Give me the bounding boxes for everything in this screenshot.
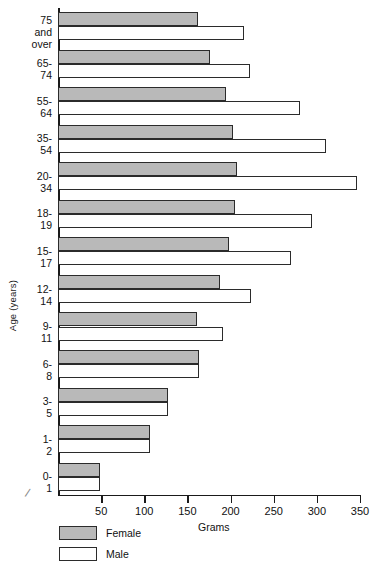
bar-group: 3-5 <box>58 383 372 421</box>
bar-group: 18-19 <box>58 196 372 234</box>
chart-legend: Female Male <box>59 524 141 566</box>
bar-male <box>58 364 199 378</box>
bar-male <box>58 251 291 265</box>
bar-group: 35-54 <box>58 121 372 159</box>
bar-female <box>58 162 237 176</box>
legend-item-male: Male <box>59 545 141 562</box>
category-label: 35-54 <box>37 132 52 156</box>
bar-female <box>58 87 226 101</box>
x-tick <box>317 495 318 503</box>
bar-chart: Age (years) 75 and over65-7455-6435-5420… <box>0 0 372 575</box>
x-tick <box>360 495 361 503</box>
x-tick-label: 50 <box>95 505 107 517</box>
bar-male <box>58 289 251 303</box>
x-tick <box>144 495 145 503</box>
x-tick-label: 350 <box>351 505 369 517</box>
legend-swatch-male-icon <box>59 547 97 561</box>
x-tick-label: 150 <box>178 505 196 517</box>
bar-group: 20-34 <box>58 158 372 196</box>
bar-female <box>58 12 198 26</box>
category-label: 65-74 <box>37 57 52 81</box>
x-tick-label: 100 <box>135 505 153 517</box>
bar-female <box>58 125 233 139</box>
bar-male <box>58 64 250 78</box>
x-axis-title: Grams <box>198 521 230 533</box>
bar-group: 0-1 <box>58 458 372 496</box>
bar-female <box>58 275 220 289</box>
bar-female <box>58 350 199 364</box>
bar-male <box>58 439 150 453</box>
legend-item-female: Female <box>59 524 141 541</box>
bar-male <box>58 214 312 228</box>
category-label: 3-5 <box>43 395 52 419</box>
bar-female <box>58 50 210 64</box>
bar-group: 55-64 <box>58 83 372 121</box>
category-label: 12-14 <box>37 283 52 307</box>
category-label: 20-34 <box>37 170 52 194</box>
x-tick <box>274 495 275 503</box>
bar-group: 75 and over <box>58 8 372 46</box>
bar-male <box>58 139 326 153</box>
bar-female <box>58 312 197 326</box>
category-label: 18-19 <box>37 207 52 231</box>
bar-male <box>58 477 100 491</box>
bar-male <box>58 26 244 40</box>
bar-female <box>58 463 100 477</box>
category-label: 9-11 <box>41 320 52 344</box>
bar-male <box>58 402 168 416</box>
category-label: 55-64 <box>37 95 52 119</box>
legend-label-female: Female <box>106 527 141 539</box>
scan-artifact-mark: / <box>24 486 32 500</box>
bar-group: 9-11 <box>58 308 372 346</box>
bar-male <box>58 327 223 341</box>
category-label: 75 and over <box>32 14 52 50</box>
category-label: 1-2 <box>43 433 52 457</box>
legend-label-male: Male <box>106 548 129 560</box>
bar-male <box>58 101 300 115</box>
bar-group: 12-14 <box>58 271 372 309</box>
x-tick-label: 250 <box>265 505 283 517</box>
x-tick <box>101 495 102 503</box>
x-tick <box>231 495 232 503</box>
bar-female <box>58 388 168 402</box>
bar-group: 1-2 <box>58 421 372 459</box>
bar-group: 65-74 <box>58 46 372 84</box>
legend-swatch-female-icon <box>59 526 97 540</box>
bar-group: 15-17 <box>58 233 372 271</box>
category-label: 15-17 <box>37 245 52 269</box>
bar-female <box>58 200 235 214</box>
category-label: 0-1 <box>43 470 52 494</box>
x-tick <box>187 495 188 503</box>
bar-male <box>58 176 357 190</box>
bar-female <box>58 425 150 439</box>
x-tick-label: 300 <box>308 505 326 517</box>
plot-area: 75 and over65-7455-6435-5420-3418-1915-1… <box>58 8 372 496</box>
category-label: 6-8 <box>43 358 52 382</box>
x-tick-label: 200 <box>221 505 239 517</box>
bar-female <box>58 237 229 251</box>
y-axis-title: Age (years) <box>7 261 18 351</box>
bar-group: 6-8 <box>58 346 372 384</box>
